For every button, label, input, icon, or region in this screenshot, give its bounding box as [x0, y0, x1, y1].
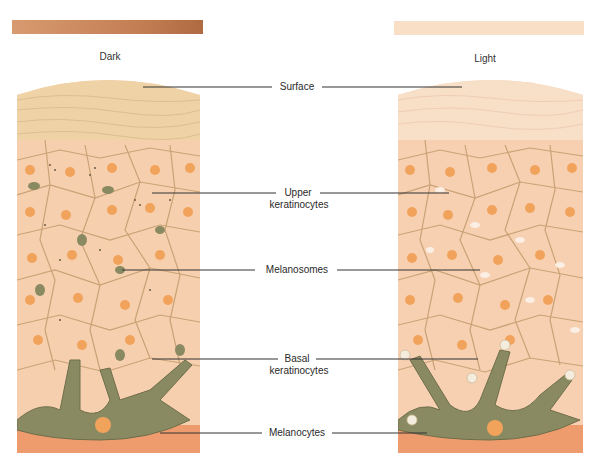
melanosomes-label: Melanosomes	[257, 264, 337, 276]
dark-skin-section	[17, 70, 200, 460]
light-skin-section	[398, 70, 583, 460]
surface-label: Surface	[272, 81, 322, 93]
basal-keratinocytes-label-2: keratinocytes	[260, 365, 338, 377]
basal-keratinocytes-label-1: Basal	[278, 353, 316, 365]
upper-keratinocytes-label-2: keratinocytes	[260, 199, 338, 211]
melanocytes-label: Melanocytes	[262, 427, 332, 439]
skin-diagram	[0, 0, 598, 467]
upper-keratinocytes-label-1: Upper	[276, 187, 320, 199]
